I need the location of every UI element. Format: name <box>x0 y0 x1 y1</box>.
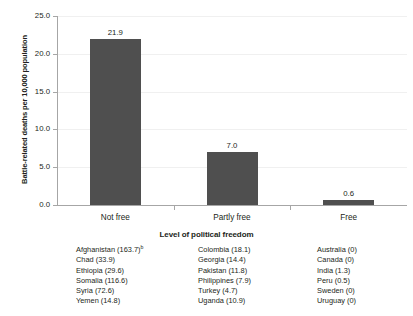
footnote-item: Australia (0) <box>317 245 357 255</box>
y-axis-line <box>57 16 58 206</box>
bar-free <box>323 200 374 205</box>
x-category-label: Free <box>299 213 399 222</box>
footnote-column-free: Australia (0)Canada (0)India (1.3)Peru (… <box>317 245 357 307</box>
y-tick-label: 20.0 <box>10 50 50 58</box>
footnote-item: Yemen (14.8) <box>76 296 143 306</box>
bar-partly-free <box>207 152 258 205</box>
x-tick-mark <box>290 206 291 210</box>
footnote-item: Turkey (4.7) <box>198 286 251 296</box>
bar-value-label: 0.6 <box>319 189 379 198</box>
y-tick-label: 0.0 <box>10 201 50 209</box>
footnote-country-lists: Afghanistan (163.7)bChad (33.9)Ethiopia … <box>0 245 413 315</box>
bar-value-label: 7.0 <box>202 141 262 150</box>
footnote-item: Colombia (18.1) <box>198 245 251 255</box>
footnote-item: Sweden (0) <box>317 286 357 296</box>
footnote-item: Ethiopia (29.6) <box>76 266 143 276</box>
y-axis-title: Battle-related deaths per 10,000 populat… <box>20 15 29 205</box>
footnote-item: Uruguay (0) <box>317 296 357 306</box>
footnote-item: Pakistan (11.8) <box>198 266 251 276</box>
y-tick-label: 15.0 <box>10 88 50 96</box>
footnote-item: Canada (0) <box>317 255 357 265</box>
x-category-label: Partly free <box>182 213 282 222</box>
footnote-item: India (1.3) <box>317 266 357 276</box>
footnote-item: Syria (72.6) <box>76 286 143 296</box>
y-tick-label: 10.0 <box>10 125 50 133</box>
bar-chart-figure: Battle-related deaths per 10,000 populat… <box>0 0 413 316</box>
footnote-item: Georgia (14.4) <box>198 255 251 265</box>
footnote-item: Peru (0.5) <box>317 276 357 286</box>
gridline <box>57 16 407 17</box>
bar-value-label: 21.9 <box>85 28 145 37</box>
footnote-item: Somalia (116.6) <box>76 276 143 286</box>
footnote-item: Chad (33.9) <box>76 255 143 265</box>
y-tick-label: 5.0 <box>10 163 50 171</box>
bar-not-free <box>90 39 141 205</box>
footnote-item: Afghanistan (163.7)b <box>76 245 143 255</box>
footnote-item: Uganda (10.9) <box>198 296 251 306</box>
footnote-column-not-free: Afghanistan (163.7)bChad (33.9)Ethiopia … <box>76 245 143 307</box>
x-axis-line <box>57 205 407 206</box>
footnote-column-partly-free: Colombia (18.1)Georgia (14.4)Pakistan (1… <box>198 245 251 307</box>
footnote-item: Philippines (7.9) <box>198 276 251 286</box>
footnote-superscript: b <box>141 244 144 250</box>
x-tick-mark <box>174 206 175 210</box>
x-category-label: Not free <box>65 213 165 222</box>
x-axis-title: Level of political freedom <box>0 230 413 239</box>
y-tick-label: 25.0 <box>10 12 50 20</box>
